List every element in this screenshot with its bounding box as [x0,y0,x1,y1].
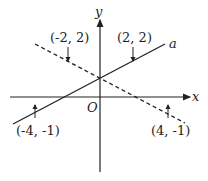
point-label-p2: (2, 2) [117,30,152,45]
x-axis-label: x [192,89,200,104]
point-label-p4: (4, -1) [151,123,190,138]
point-label-p1: (-2, 2) [50,30,89,45]
line-a-label: a [169,36,177,51]
origin-label: O [87,100,98,115]
coordinate-diagram: y x O a (-2, 2) (2, 2) (-4, -1) (4, -1) [0,0,208,181]
dashed-line [35,44,185,123]
point-label-p3: (-4, -1) [16,123,60,138]
y-axis-label: y [94,4,103,19]
